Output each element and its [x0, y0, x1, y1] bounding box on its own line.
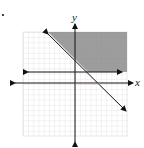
y-axis-label: y — [72, 12, 77, 23]
x-axis-label: x — [135, 77, 140, 88]
